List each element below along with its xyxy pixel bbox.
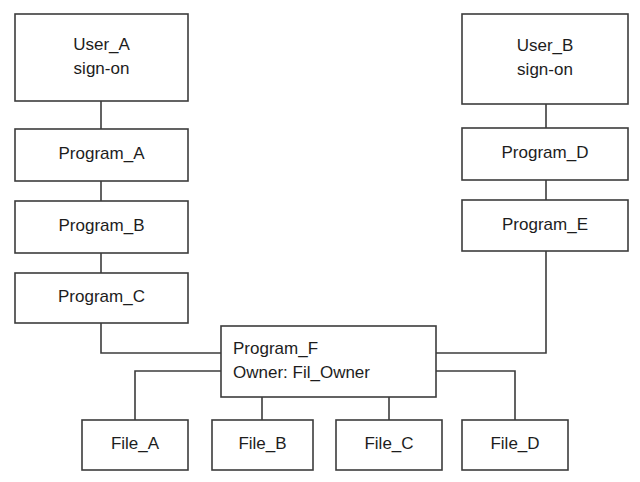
node-program-e[interactable]: Program_E — [462, 200, 628, 251]
node-label-program-a-line-1: Program_A — [59, 144, 146, 163]
node-box-user-b — [462, 14, 628, 104]
node-user-b[interactable]: User_Bsign-on — [462, 14, 628, 104]
connector-program-e-to-program-f — [436, 251, 546, 353]
node-user-a[interactable]: User_Asign-on — [15, 14, 188, 101]
node-file-b[interactable]: File_B — [212, 420, 313, 470]
node-label-file-a-line-1: File_A — [111, 434, 160, 453]
node-program-b[interactable]: Program_B — [15, 201, 188, 253]
node-label-program-e-line-1: Program_E — [502, 215, 588, 234]
connector-program-c-to-program-f — [101, 323, 221, 353]
diagram-canvas-container: User_Asign-onProgram_AProgram_BProgram_C… — [0, 0, 640, 482]
node-label-file-d-line-1: File_D — [490, 434, 539, 453]
node-program-f[interactable]: Program_FOwner: Fil_Owner — [221, 326, 436, 397]
node-file-d[interactable]: File_D — [462, 420, 568, 470]
node-box-program-f — [221, 326, 436, 397]
node-label-program-f-line-2: Owner: Fil_Owner — [233, 363, 370, 382]
node-label-file-c-line-1: File_C — [364, 434, 413, 453]
node-label-user-a-line-1: User_A — [73, 35, 130, 54]
node-program-a[interactable]: Program_A — [15, 129, 188, 181]
node-label-program-b-line-1: Program_B — [59, 216, 145, 235]
node-label-program-d-line-1: Program_D — [502, 143, 589, 162]
node-label-program-c-line-1: Program_C — [58, 287, 145, 306]
flow-diagram: User_Asign-onProgram_AProgram_BProgram_C… — [0, 0, 640, 482]
node-box-user-a — [15, 14, 188, 101]
node-label-user-a-line-2: sign-on — [74, 59, 130, 78]
node-label-program-f-line-1: Program_F — [233, 339, 318, 358]
node-file-c[interactable]: File_C — [336, 420, 442, 470]
node-label-user-b-line-2: sign-on — [517, 60, 573, 79]
connector-program-f-to-file-d — [436, 371, 515, 420]
node-file-a[interactable]: File_A — [82, 420, 188, 470]
nodes-layer: User_Asign-onProgram_AProgram_BProgram_C… — [15, 14, 628, 470]
node-program-d[interactable]: Program_D — [462, 128, 628, 180]
node-program-c[interactable]: Program_C — [15, 273, 188, 323]
connector-program-f-to-file-a — [135, 371, 221, 420]
node-label-user-b-line-1: User_B — [517, 36, 574, 55]
node-label-file-b-line-1: File_B — [238, 434, 286, 453]
